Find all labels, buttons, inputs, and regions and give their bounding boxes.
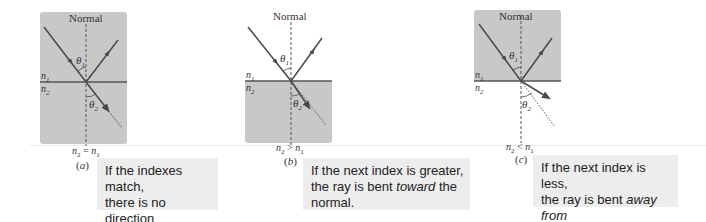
panel-c-diagram xyxy=(474,16,561,143)
panel-c-refracted-ray xyxy=(521,81,547,97)
panel-b-index-relation: n2 > n1 xyxy=(276,142,304,156)
panel-c-n1-label: n1 xyxy=(475,69,484,83)
panel-b-n2-label: n2 xyxy=(246,82,255,96)
panel-c-n2-label: n2 xyxy=(475,82,484,96)
panel-c-reflected-ray xyxy=(521,38,552,81)
panel-b-reflected-ray xyxy=(291,38,322,81)
panel-c-theta2-label: θ2 xyxy=(522,98,531,113)
panel-a-n1-label: n1 xyxy=(41,70,50,84)
panel-b-letter: (b) xyxy=(284,155,297,167)
panel-b-n1-label: n1 xyxy=(246,69,255,83)
panel-b-theta1-arc xyxy=(283,68,291,71)
panel-b-diagram xyxy=(245,22,332,147)
panel-a-index-relation: n2 = n1 xyxy=(72,145,100,159)
panel-a-n2-label: n2 xyxy=(41,83,50,97)
panel-a-normal-label: Normal xyxy=(69,12,103,24)
panel-b-theta1-label: θ1 xyxy=(280,52,289,67)
panel-b-theta2-arc xyxy=(291,94,300,96)
panel-c-caption: If the next index is less, the ray is be… xyxy=(533,155,678,207)
panel-a-letter: (a) xyxy=(76,159,89,171)
panel-a-continuation xyxy=(107,109,122,128)
panel-b-theta2-label: θ2 xyxy=(293,97,302,112)
panel-a-diagram xyxy=(40,24,127,146)
panel-c-theta1-label: θ1 xyxy=(509,49,518,64)
panel-b-normal-label: Normal xyxy=(273,10,307,22)
panel-b-caption: If the next index is greater, the ray is… xyxy=(303,158,470,210)
refraction-figure: Normal θ1 θ2 n1 n2 n2 = n1 (a) If the in… xyxy=(0,0,706,222)
panel-a-reflected-ray xyxy=(86,40,118,82)
panel-a-caption: If the indexes match, there is no direct… xyxy=(97,158,218,210)
panel-c-theta1-arc xyxy=(513,67,521,70)
panel-c-letter: (c) xyxy=(515,153,527,165)
panel-c-normal-label: Normal xyxy=(499,10,533,22)
panel-a-theta2-label: θ2 xyxy=(89,98,98,113)
panel-a-theta2-arc xyxy=(86,94,96,97)
panel-a-theta1-label: θ1 xyxy=(76,54,85,69)
